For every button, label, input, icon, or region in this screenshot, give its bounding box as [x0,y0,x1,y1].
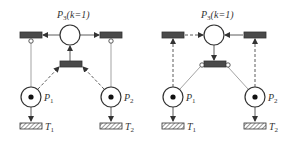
token-icon [252,94,257,99]
dashed-arc-p1-to-middle [38,67,59,89]
place-p2-label: P2 [123,92,134,105]
inhibitor-head-icon [200,63,204,67]
inhibitor-p1-middle [180,67,200,89]
transition-t2 [100,123,122,129]
transition-t2-label: T2 [125,121,135,134]
transition-top-left [162,32,184,38]
inhibitor-head-icon [29,39,33,43]
dashed-arc-p2-to-middle [83,67,104,89]
token-icon [28,94,33,99]
token-icon [108,94,113,99]
transition-t2 [244,123,266,129]
transition-top-right [100,32,122,38]
transition-middle [60,61,82,67]
place-p3 [60,25,80,45]
transition-t1 [162,123,184,129]
transition-t1 [20,123,42,129]
place-p3-label: P3(k=1) [200,9,234,22]
transition-top-left [20,32,42,38]
petri-net-figure: P3(k=1) P1 P2 T1 T2 [0,0,296,145]
transition-t1-label: T1 [187,121,197,134]
place-p3-label: P3(k=1) [56,9,90,22]
transition-middle [204,61,226,67]
place-p3 [204,25,224,45]
diagram-left: P3(k=1) P1 P2 T1 T2 [20,9,135,134]
place-p1-label: P1 [43,92,54,105]
place-p1-label: P1 [185,92,196,105]
transition-t2-label: T2 [269,121,279,134]
inhibitor-head-icon [226,63,230,67]
inhibitor-head-icon [109,39,113,43]
place-p2-label: P2 [267,92,278,105]
transition-t1-label: T1 [45,121,55,134]
diagram-right: P3(k=1) P1 P2 T1 T2 [162,9,279,134]
transition-top-right [244,32,266,38]
token-icon [170,94,175,99]
inhibitor-p2-middle [228,67,248,89]
